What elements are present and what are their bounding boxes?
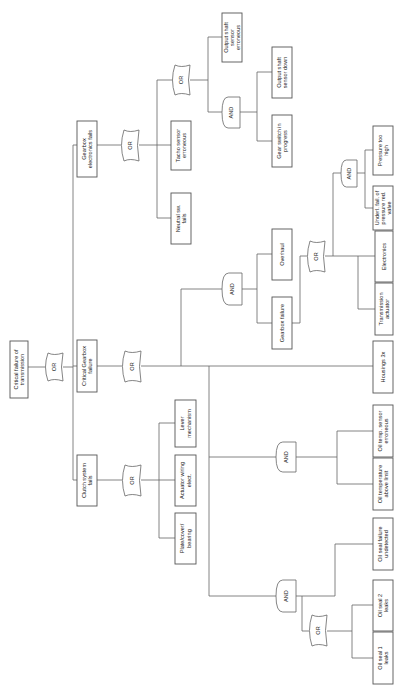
- event-box-cgf: Critical Gearboxfailure: [77, 340, 97, 392]
- event-box-gef: Gearboxelectronics fails: [77, 121, 97, 177]
- event-box-tacho: Tacho sensorerroneous: [171, 121, 191, 170]
- event-box-trans-act: Transmissionactuator: [375, 283, 393, 335]
- event-box-housings: Housings 3x: [373, 341, 393, 393]
- event-label: Oil temperature: [377, 465, 383, 504]
- gate-label: AND: [283, 590, 289, 602]
- gate-label: AND: [346, 168, 352, 180]
- event-label: fails: [87, 475, 93, 485]
- event-label: sensor: [229, 29, 235, 46]
- event-label: Tacho sensor: [175, 129, 181, 162]
- event-label: Electronics: [381, 243, 387, 271]
- event-label: Actuator wiring: [179, 462, 185, 499]
- event-label: above limit: [383, 470, 389, 497]
- or-gate-icon: OR: [46, 353, 64, 381]
- event-label: Overhaul: [279, 243, 285, 266]
- event-box-overhaul: Overhaul: [272, 229, 292, 280]
- event-label: Neutral sw.: [175, 204, 181, 232]
- event-box-oil-temp-sensor: Oil temp. sensorerroneous: [373, 405, 393, 457]
- event-label: Housings 3x: [380, 351, 386, 382]
- event-box-oil-seal-undet: Oil seal failureundetected: [373, 518, 393, 570]
- event-label: bearing: [186, 529, 192, 548]
- event-box-underl: Underl. fail. ofpressure red.valve: [373, 186, 393, 230]
- or-gate-icon: OR: [173, 65, 191, 95]
- event-label: Oil seal 2: [377, 594, 383, 617]
- gate-label: OR: [129, 362, 135, 370]
- event-label: leaks: [383, 651, 389, 664]
- event-label: electronics fails: [87, 130, 93, 168]
- event-label: failure: [87, 358, 93, 373]
- event-box-lever: Levermechanism: [175, 400, 196, 447]
- event-label: Clutch system: [81, 463, 87, 498]
- fault-tree-canvas: Critical failure oftransmissionORGearbox…: [0, 0, 411, 687]
- gate-label: OR: [51, 363, 57, 371]
- event-label: valve: [386, 201, 392, 214]
- event-label: Output shaft: [276, 57, 282, 88]
- event-box-oil-seal-1: Oil seal 1leaks: [373, 632, 393, 684]
- event-label: Pressure too: [377, 135, 383, 167]
- event-label: Transmission: [378, 292, 384, 325]
- gate-label: OR: [315, 626, 321, 634]
- event-label: Underl. fail. of: [374, 190, 380, 225]
- event-label: transmission: [19, 354, 25, 385]
- event-label: Critical Gearbox: [81, 346, 87, 386]
- and-gate-icon: AND: [222, 97, 240, 128]
- or-gate-icon: OR: [310, 615, 328, 646]
- event-label: sensor down: [282, 57, 288, 89]
- event-box-actuator-wiring: Actuator wiringelect.: [175, 455, 196, 506]
- event-label: Output shaft: [223, 22, 229, 53]
- event-box-root: Critical failure oftransmission: [10, 341, 28, 398]
- event-box-neutral: Neutral sw.fails: [171, 193, 191, 244]
- event-label: erroneous: [235, 25, 241, 50]
- event-label: actuator: [384, 299, 390, 319]
- gate-label: OR: [129, 476, 135, 484]
- event-box-csf: Clutch systemfails: [77, 455, 97, 506]
- and-gate-icon: AND: [222, 273, 242, 305]
- event-label: mechanism: [186, 409, 192, 438]
- event-box-plate: Plate/cover/bearing: [175, 513, 196, 564]
- event-label: Critical failure of: [13, 349, 19, 390]
- event-label: leaks: [383, 599, 389, 612]
- event-label: Plate/cover/: [179, 523, 185, 553]
- event-box-oil-seal-2: Oil seal 2leaks: [373, 580, 393, 631]
- gate-label: OR: [127, 141, 133, 149]
- event-label: fails: [181, 213, 187, 223]
- or-gate-icon: OR: [123, 465, 142, 496]
- event-label: erroneous: [181, 133, 187, 158]
- gate-label: AND: [228, 107, 234, 119]
- event-label: Gear switch in: [276, 123, 282, 158]
- event-label: Gearbox: [81, 138, 87, 160]
- event-box-ossens-down: Output shaftsensor down: [272, 47, 292, 98]
- or-gate-icon: OR: [122, 130, 140, 161]
- event-label: undetected: [383, 530, 389, 558]
- fault-tree-diagram: Critical failure oftransmissionORGearbox…: [0, 0, 411, 687]
- event-label: elect.: [186, 473, 192, 487]
- event-label: Gearbox failure: [279, 304, 285, 342]
- event-label: Oil seal 1: [377, 646, 383, 669]
- and-gate-icon: AND: [276, 442, 296, 472]
- event-label: progress: [282, 130, 288, 152]
- event-box-oil-temp-limit: Oil temperatureabove limit: [373, 458, 393, 510]
- event-label: erroneous: [383, 418, 389, 443]
- event-label: Lever: [179, 416, 185, 430]
- and-gate-icon: AND: [276, 580, 296, 612]
- event-box-gear-switch: Gear switch inprogress: [272, 115, 292, 167]
- gate-label: OR: [313, 252, 319, 260]
- event-box-pressure-high: Pressure toohigh: [373, 126, 393, 175]
- event-label: pressure red.: [380, 191, 386, 224]
- gate-label: AND: [283, 451, 289, 463]
- event-label: Oil seal failure: [377, 526, 383, 561]
- and-gate-icon: AND: [341, 160, 357, 187]
- event-label: high: [383, 145, 389, 156]
- or-gate-icon: OR: [123, 351, 142, 382]
- event-box-gearbox-failure: Gearbox failure: [272, 297, 292, 349]
- event-label: Oil temp. sensor: [377, 411, 383, 452]
- or-gate-icon: OR: [308, 241, 326, 272]
- event-box-ossens-err: Output shaftsensorerroneous: [222, 13, 242, 62]
- gate-label: AND: [229, 283, 235, 295]
- event-box-electronics: Electronics: [375, 231, 393, 282]
- gate-label: OR: [178, 76, 184, 84]
